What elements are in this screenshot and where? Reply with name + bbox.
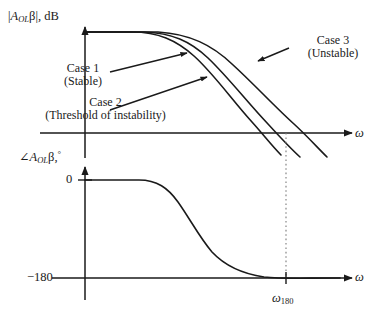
annotation-case-1: Case 1 (Stable) xyxy=(43,62,123,89)
omega-180-tick-label: ω180 xyxy=(272,288,294,307)
magnitude-x-axis-label: ω xyxy=(355,126,364,140)
annotation-case-2: Case 2 (Threshold of instability) xyxy=(18,96,193,123)
annotation-case-1-line1: Case 1 xyxy=(43,62,123,75)
annotation-case-2-line1: Case 2 xyxy=(18,96,193,109)
annotation-case-3: Case 3 (Unstable) xyxy=(290,34,376,61)
phase-y-axis-label: ∠AOLβ,° xyxy=(19,149,61,166)
annotation-case-2-line2: (Threshold of instability) xyxy=(18,109,193,122)
magnitude-y-axis-label: |AOLβ|, dB xyxy=(8,9,59,25)
curve-case-1 xyxy=(85,32,281,155)
curve-phase xyxy=(85,180,340,278)
phase-y-tick-0: 0 xyxy=(66,172,72,186)
case-3-leader-arrow xyxy=(258,48,289,61)
bode-stability-figure: |AOLβ|, dB ∠AOLβ,° 0 −180 ω ω ω180 Case … xyxy=(0,0,384,316)
annotation-case-1-line2: (Stable) xyxy=(43,75,123,88)
annotation-case-3-line1: Case 3 xyxy=(290,34,376,47)
phase-y-tick-neg180: −180 xyxy=(27,270,53,284)
phase-x-axis-label: ω xyxy=(355,270,364,284)
annotation-case-3-line2: (Unstable) xyxy=(290,47,376,60)
